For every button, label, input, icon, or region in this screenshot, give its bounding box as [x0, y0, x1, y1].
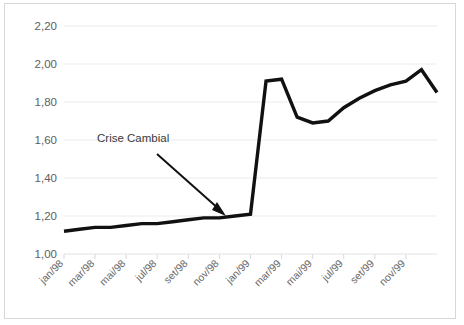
chart-frame: 2,202,001,801,601,401,201,00 jan/98mar/9… [4, 3, 456, 319]
x-axis-tick-label: set/99 [348, 257, 377, 286]
gridlines-group [64, 26, 437, 216]
x-axis-tick-label: jan/99 [222, 257, 252, 287]
x-axis-tick-label: jul/99 [318, 257, 345, 284]
x-axis-tick-label: mar/98 [65, 257, 97, 289]
y-axis-labels-group: 2,202,001,801,601,401,201,00 [35, 20, 57, 260]
line-chart: 2,202,001,801,601,401,201,00 jan/98mar/9… [5, 4, 457, 320]
x-axis-tick-label: jan/98 [36, 257, 66, 287]
x-axis-tick-label: mar/99 [251, 257, 283, 289]
x-axis-tick-label: mai/98 [97, 257, 128, 288]
x-axis-labels-group: jan/98mar/98mai/98jul/98set/98nov/98jan/… [36, 257, 407, 289]
y-axis-tick-label: 1,40 [35, 172, 57, 184]
annotation-label: Crise Cambial [97, 132, 169, 144]
y-axis-tick-label: 1,80 [35, 96, 57, 108]
y-axis-tick-label: 1,00 [35, 248, 57, 260]
x-axis-tick-label: set/98 [161, 257, 190, 286]
x-axis-tick-label: nov/99 [377, 257, 408, 288]
y-axis-tick-label: 1,60 [35, 134, 57, 146]
y-axis-tick-label: 2,20 [35, 20, 57, 32]
x-tickmarks-group [64, 254, 406, 259]
data-series-line [64, 70, 437, 232]
x-axis-tick-label: nov/98 [190, 257, 221, 288]
y-axis-tick-label: 1,20 [35, 210, 57, 222]
chart-plot-area: 2,202,001,801,601,401,201,00 jan/98mar/9… [5, 4, 457, 320]
x-axis-tick-label: mai/99 [283, 257, 314, 288]
annotation-crise-cambial: Crise Cambial [97, 132, 226, 216]
annotation-arrow-shaft [157, 154, 220, 210]
y-axis-tick-label: 2,00 [35, 58, 57, 70]
x-axis-tick-label: jul/98 [132, 257, 159, 284]
